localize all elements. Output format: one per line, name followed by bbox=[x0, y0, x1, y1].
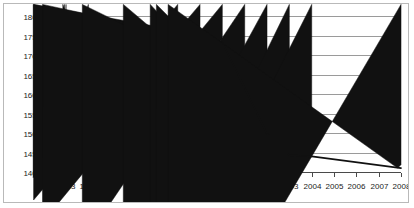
x-axis-tick-label: 2006 bbox=[348, 182, 366, 191]
x-axis-tick-label: 2004 bbox=[304, 182, 322, 191]
line-chart: 1400000014500000150000001550000016000000… bbox=[4, 4, 408, 202]
x-axis-tick-label: 2005 bbox=[326, 182, 344, 191]
x-axis-tick-label: 2008 bbox=[393, 182, 408, 191]
x-axis-tick-label: 2007 bbox=[371, 182, 389, 191]
chart-frame: 1400000014500000150000001550000016000000… bbox=[3, 3, 409, 203]
